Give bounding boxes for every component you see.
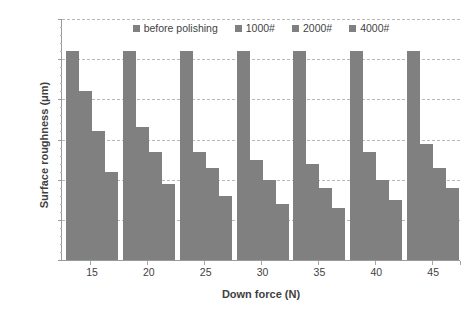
legend-item[interactable]: 2000#	[292, 23, 332, 34]
y-tick-minor-mark	[60, 228, 63, 229]
legend-swatch-icon	[133, 25, 140, 32]
bar-chart: Surface roughness (μm) before polishing1…	[0, 0, 470, 314]
legend-item[interactable]: 1000#	[235, 23, 275, 34]
x-tick-label: 35	[289, 266, 349, 278]
x-tick-label: 45	[403, 266, 463, 278]
bar-group	[407, 19, 459, 260]
x-tick-mark	[204, 261, 205, 265]
y-tick-minor-mark	[60, 43, 63, 44]
legend-label: before polishing	[144, 23, 218, 34]
bar[interactable]	[193, 152, 206, 260]
y-tick-minor-mark	[60, 188, 63, 189]
y-tick-minor-mark	[60, 172, 63, 173]
y-tick-mark	[58, 180, 62, 181]
y-tick-minor-mark	[60, 164, 63, 165]
legend-swatch-icon	[292, 25, 299, 32]
legend-swatch-icon	[235, 25, 242, 32]
legend-swatch-icon	[349, 25, 356, 32]
y-tick-minor-mark	[60, 131, 63, 132]
x-tick-mark	[261, 261, 262, 265]
x-tick-mark	[375, 261, 376, 265]
bar[interactable]	[79, 91, 92, 260]
bar[interactable]	[350, 51, 363, 260]
y-tick-mark	[58, 220, 62, 221]
y-tick-minor-mark	[60, 91, 63, 92]
bar[interactable]	[180, 51, 193, 260]
bar-group	[293, 19, 345, 260]
legend-label: 1000#	[246, 23, 275, 34]
bar[interactable]	[219, 196, 232, 260]
plot-area	[62, 19, 460, 260]
y-tick-mark	[58, 59, 62, 60]
legend-item[interactable]: before polishing	[133, 23, 218, 34]
bar[interactable]	[92, 131, 105, 260]
bar[interactable]	[136, 127, 149, 260]
y-tick-minor-mark	[60, 107, 63, 108]
y-tick-minor-mark	[60, 244, 63, 245]
bar-group	[237, 19, 289, 260]
y-tick-minor-mark	[60, 204, 63, 205]
x-tick-mark	[460, 261, 461, 265]
bar[interactable]	[433, 168, 446, 260]
bar[interactable]	[306, 164, 319, 260]
bar-group	[180, 19, 232, 260]
y-tick-minor-mark	[60, 156, 63, 157]
x-tick-mark	[318, 261, 319, 265]
x-tick-label: 40	[346, 266, 406, 278]
y-tick-minor-mark	[60, 196, 63, 197]
y-tick-minor-mark	[60, 252, 63, 253]
x-tick-label: 25	[176, 266, 236, 278]
chart-legend: before polishing1000#2000#4000#	[62, 23, 460, 34]
y-tick-minor-mark	[60, 75, 63, 76]
y-tick-mark	[58, 19, 62, 20]
bar[interactable]	[276, 204, 289, 260]
bar[interactable]	[162, 184, 175, 260]
bar[interactable]	[293, 51, 306, 260]
y-tick-minor-mark	[60, 83, 63, 84]
y-tick-minor-mark	[60, 148, 63, 149]
x-tick-mark	[147, 261, 148, 265]
y-tick-minor-mark	[60, 212, 63, 213]
bar[interactable]	[206, 168, 219, 260]
y-axis-title: Surface roughness (μm)	[38, 25, 50, 265]
bar[interactable]	[420, 144, 433, 260]
bar[interactable]	[446, 188, 459, 260]
bar[interactable]	[66, 51, 79, 260]
y-tick-minor-mark	[60, 236, 63, 237]
y-tick-mark	[58, 260, 62, 261]
x-tick-mark	[432, 261, 433, 265]
y-tick-mark	[58, 99, 62, 100]
bar[interactable]	[123, 51, 136, 260]
bar[interactable]	[149, 152, 162, 260]
y-tick-minor-mark	[60, 35, 63, 36]
bar[interactable]	[105, 172, 118, 260]
y-tick-minor-mark	[60, 123, 63, 124]
x-tick-mark	[90, 261, 91, 265]
legend-item[interactable]: 4000#	[349, 23, 389, 34]
bar[interactable]	[319, 188, 332, 260]
bar-group	[66, 19, 118, 260]
bar[interactable]	[389, 200, 402, 260]
bar[interactable]	[332, 208, 345, 260]
y-tick-minor-mark	[60, 51, 63, 52]
x-tick-label: 15	[62, 266, 122, 278]
x-axis-title: Down force (N)	[62, 288, 460, 300]
x-tick-label: 20	[119, 266, 179, 278]
bar[interactable]	[363, 152, 376, 260]
bar[interactable]	[237, 51, 250, 260]
x-tick-label: 30	[233, 266, 293, 278]
y-tick-mark	[58, 140, 62, 141]
bar-group	[123, 19, 175, 260]
legend-label: 4000#	[360, 23, 389, 34]
bar[interactable]	[250, 160, 263, 260]
y-tick-minor-mark	[60, 115, 63, 116]
bar[interactable]	[407, 51, 420, 260]
bar-group	[350, 19, 402, 260]
bar[interactable]	[263, 180, 276, 260]
legend-label: 2000#	[303, 23, 332, 34]
y-tick-minor-mark	[60, 67, 63, 68]
bar[interactable]	[376, 180, 389, 260]
